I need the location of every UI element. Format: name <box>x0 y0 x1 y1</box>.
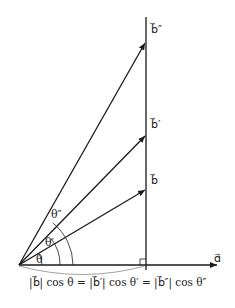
vector-b-double-prime-arrow <box>19 43 145 265</box>
label-theta: θ <box>36 253 43 266</box>
label-b-double-prime: b⃗″ <box>149 22 162 36</box>
label-theta-prime: θ′ <box>45 236 55 249</box>
projection-brace <box>19 266 145 275</box>
projection-diagram: b⃗″ b⃗′ b⃗ ɑ⃗ θ θ′ θ″ |b⃗| cos θ = |b⃗′|… <box>0 0 235 308</box>
label-b-prime: b⃗′ <box>149 117 161 131</box>
label-b: b⃗ <box>149 173 158 187</box>
theta-double-prime-arc <box>53 223 73 265</box>
label-a: ɑ⃗ <box>214 252 221 265</box>
right-angle-marker <box>140 259 146 265</box>
projection-equation: |b⃗| cos θ = |b⃗′| cos θ′ = |b⃗″| cos θ″ <box>29 275 207 290</box>
label-theta-double-prime: θ″ <box>51 208 62 221</box>
